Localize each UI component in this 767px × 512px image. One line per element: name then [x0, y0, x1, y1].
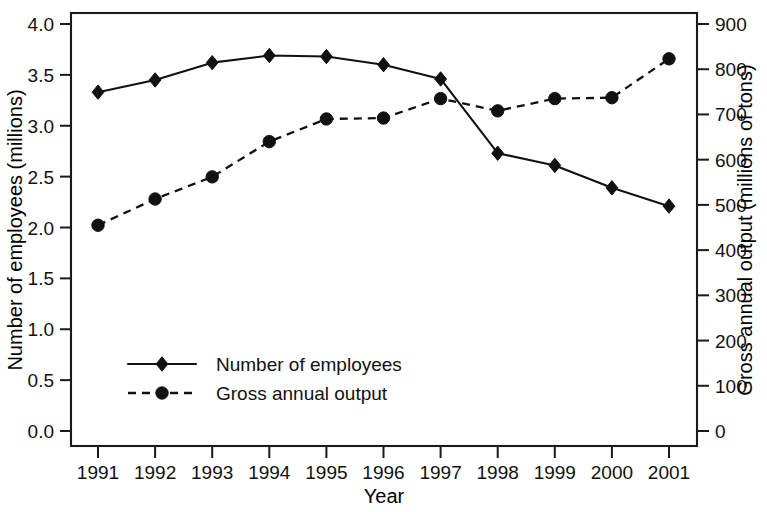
y-axis-right-tick-label: 0 — [715, 421, 726, 442]
x-axis-tick-label: 1999 — [534, 462, 576, 483]
x-axis-tick-label: 1998 — [477, 462, 519, 483]
legend-marker-swatch — [156, 387, 168, 399]
legend-item-label: Gross annual output — [216, 383, 388, 404]
data-point-marker — [377, 112, 389, 124]
x-axis-tick-label: 1995 — [305, 462, 347, 483]
data-point-marker — [320, 113, 332, 125]
y-axis-left-tick-label: 1.5 — [28, 268, 54, 289]
data-point-marker — [492, 105, 504, 117]
x-axis-tick-label: 1996 — [362, 462, 404, 483]
y-axis-left-tick-label: 4.0 — [28, 14, 54, 35]
x-axis: 1991199219931994199519961997199819992000… — [77, 446, 690, 483]
y-axis-right-title: Gross annual output (millions of tons) — [734, 64, 756, 395]
legend-item-label: Number of employees — [216, 354, 402, 375]
y-axis-left-tick-label: 1.0 — [28, 319, 54, 340]
chart-figure: 0.00.51.01.52.02.53.03.54.0 010020030040… — [0, 0, 767, 512]
x-axis-tick-label: 2001 — [648, 462, 690, 483]
y-axis-left: 0.00.51.01.52.02.53.03.54.0 — [28, 14, 71, 442]
y-axis-left-tick-label: 2.5 — [28, 167, 54, 188]
y-axis-left-tick-label: 0.0 — [28, 421, 54, 442]
data-point-marker — [149, 193, 161, 205]
y-axis-right-tick-label: 900 — [715, 14, 747, 35]
x-axis-tick-label: 1993 — [191, 462, 233, 483]
x-axis-tick-label: 2000 — [591, 462, 633, 483]
data-point-marker — [434, 92, 446, 104]
data-point-marker — [263, 135, 275, 147]
x-axis-tick-label: 1994 — [248, 462, 291, 483]
data-point-marker — [606, 92, 618, 104]
y-axis-left-tick-label: 2.0 — [28, 218, 54, 239]
y-axis-left-title: Number of employees (millions) — [4, 89, 26, 370]
data-point-marker — [92, 219, 104, 231]
y-axis-left-tick-label: 3.5 — [28, 65, 54, 86]
x-axis-tick-label: 1991 — [77, 462, 119, 483]
y-axis-left-tick-label: 0.5 — [28, 370, 54, 391]
x-axis-title: Year — [364, 485, 405, 507]
data-point-marker — [663, 53, 675, 65]
data-point-marker — [549, 92, 561, 104]
data-point-marker — [206, 171, 218, 183]
x-axis-tick-label: 1992 — [134, 462, 176, 483]
x-axis-tick-label: 1997 — [419, 462, 461, 483]
y-axis-left-tick-label: 3.0 — [28, 116, 54, 137]
chart-canvas: 0.00.51.01.52.02.53.03.54.0 010020030040… — [0, 0, 767, 512]
